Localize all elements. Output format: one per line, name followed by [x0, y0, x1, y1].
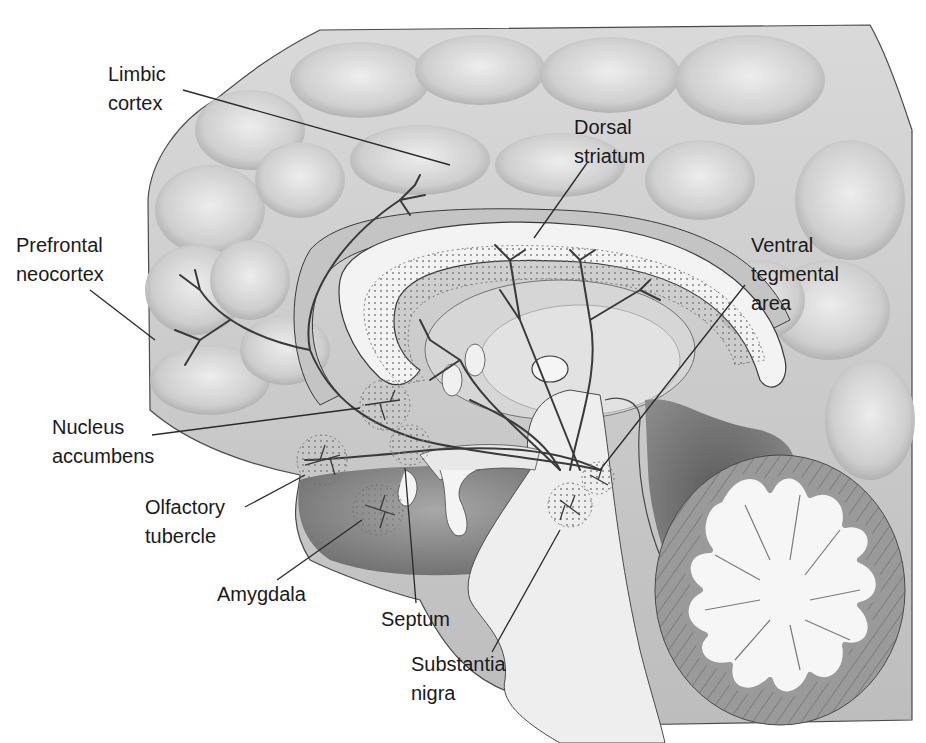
label-text: nigra — [411, 679, 506, 708]
label-text: tubercle — [145, 522, 225, 551]
interthalamic-adhesion — [532, 356, 568, 382]
label-text: Dorsal — [574, 113, 645, 142]
label-text: accumbens — [52, 442, 154, 471]
label-text: Limbic — [108, 60, 166, 89]
label-text: Substantia — [411, 650, 506, 679]
substantia-nigra-region — [548, 483, 592, 527]
label-dorsal-striatum: Dorsalstriatum — [574, 113, 645, 171]
label-amygdala: Amygdala — [217, 580, 306, 609]
label-text: Nucleus — [52, 413, 154, 442]
label-text: striatum — [574, 142, 645, 171]
septum-region — [390, 425, 430, 465]
label-text: Septum — [381, 605, 450, 634]
fornix-blob-2 — [465, 344, 485, 376]
label-limbic-cortex: Limbiccortex — [108, 60, 166, 118]
label-text: tegmental — [751, 260, 839, 289]
label-prefrontal-neocortex: Prefrontalneocortex — [16, 231, 104, 289]
label-substantia-nigra: Substantianigra — [411, 650, 506, 708]
label-text: Prefrontal — [16, 231, 104, 260]
label-text: cortex — [108, 89, 166, 118]
prefrontal-neocortex-leader-line — [90, 290, 155, 340]
label-text: Olfactory — [145, 493, 225, 522]
label-ventral-tegmental-area: Ventraltegmentalarea — [751, 231, 839, 318]
cerebellum — [655, 455, 905, 725]
label-nucleus-accumbens: Nucleusaccumbens — [52, 413, 154, 471]
label-text: area — [751, 289, 839, 318]
label-olfactory-tubercle: Olfactorytubercle — [145, 493, 225, 551]
label-septum: Septum — [381, 605, 450, 634]
label-text: neocortex — [16, 260, 104, 289]
brain-diagram: LimbiccortexDorsalstriatumPrefrontalneoc… — [0, 0, 926, 743]
label-text: Ventral — [751, 231, 839, 260]
label-text: Amygdala — [217, 580, 306, 609]
